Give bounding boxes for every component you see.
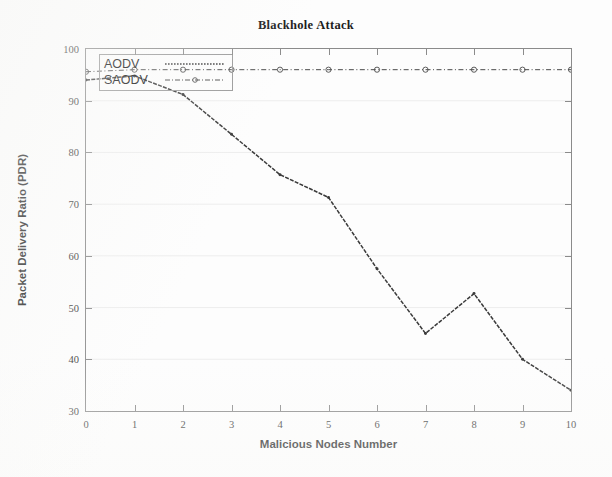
legend-item-saodv: SAODV [104,72,226,88]
x-tick-label: 7 [423,419,428,430]
x-tick-label: 10 [566,419,577,430]
plot-svg [86,49,571,411]
data-point-aodv [473,292,476,295]
legend-item-aodv: AODV [104,56,226,72]
x-tick-mark [280,405,281,411]
chart-legend: AODV SAODV [99,54,233,91]
data-point-aodv [230,133,233,136]
y-tick-mark [86,152,92,153]
series-line-aodv [86,76,571,390]
x-tick-mark [232,405,233,411]
legend-label-saodv: SAODV [104,74,162,87]
y-tick-label: 50 [69,302,80,313]
y-tick-mark [86,359,92,360]
x-tick-label: 6 [374,419,379,430]
y-axis-title-text: Packet Delivery Ratio (PDR) [16,154,28,306]
legend-sample-aodv [164,59,226,69]
x-tick-label: 9 [520,419,525,430]
data-point-aodv [376,267,379,270]
y-axis-title: Packet Delivery Ratio (PDR) [13,48,31,412]
legend-label-aodv: AODV [104,58,162,71]
x-tick-mark [280,49,281,55]
y-tick-mark [86,101,92,102]
x-tick-mark [135,49,136,55]
data-point-aodv [521,358,524,361]
x-tick-mark [183,405,184,411]
x-tick-mark [474,405,475,411]
y-tick-label: 60 [69,250,80,261]
x-tick-mark [329,405,330,411]
y-tick-mark [86,308,92,309]
y-tick-mark [565,256,571,257]
x-tick-mark [183,49,184,55]
x-tick-mark [426,49,427,55]
x-tick-mark [523,49,524,55]
x-tick-mark [329,49,330,55]
x-tick-label: 2 [180,419,185,430]
y-tick-label: 100 [63,44,79,55]
data-point-aodv [279,173,282,176]
chart-page: Blackhole Attack Packet Delivery Ratio (… [0,0,612,477]
y-tick-label: 70 [69,199,80,210]
data-point-aodv [424,332,427,335]
y-tick-label: 90 [69,95,80,106]
y-tick-mark [86,204,92,205]
x-axis-title: Malicious Nodes Number [85,438,572,450]
x-tick-label: 0 [83,419,88,430]
legend-sample-saodv [164,75,226,85]
y-tick-mark [565,204,571,205]
x-tick-label: 5 [326,419,331,430]
y-tick-label: 30 [69,406,80,417]
plot-area: AODV SAODV 30405060708090100012345678910 [85,48,572,412]
x-tick-mark [426,405,427,411]
x-tick-mark [377,49,378,55]
x-tick-label: 4 [277,419,282,430]
y-tick-label: 40 [69,354,80,365]
y-tick-mark [86,256,92,257]
x-tick-mark [523,405,524,411]
x-tick-mark [135,405,136,411]
y-tick-mark [565,101,571,102]
x-tick-mark [377,405,378,411]
y-tick-label: 80 [69,147,80,158]
x-tick-label: 3 [229,419,234,430]
x-tick-mark [232,49,233,55]
data-point-aodv [182,93,185,96]
data-point-aodv [327,196,330,199]
x-tick-label: 1 [132,419,137,430]
y-tick-mark [565,308,571,309]
chart-title: Blackhole Attack [0,18,612,33]
y-tick-mark [565,359,571,360]
x-tick-mark [474,49,475,55]
x-tick-label: 8 [471,419,476,430]
y-tick-mark [565,152,571,153]
data-point-aodv [86,79,87,82]
